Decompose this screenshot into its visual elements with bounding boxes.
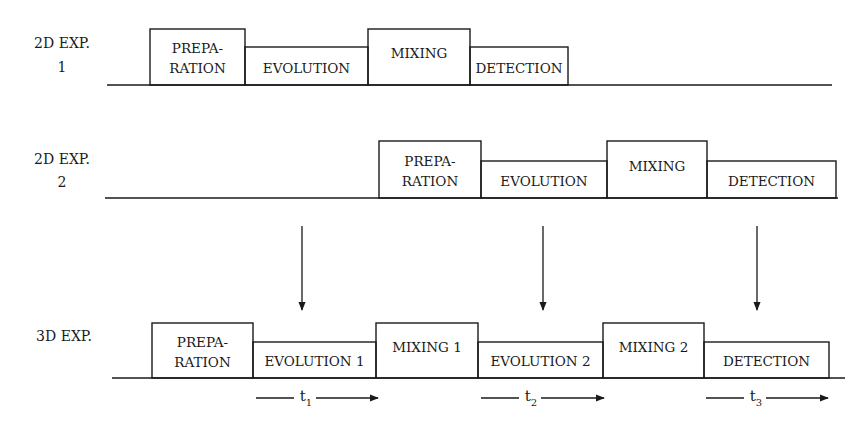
experiment-row-2d-exp-2: 2D EXP.2PREPA-RATIONEVOLUTIONMIXINGDETEC… xyxy=(34,141,838,198)
time-label-t2: t2 xyxy=(481,387,604,408)
block-label: DETECTION xyxy=(723,353,810,369)
block-detection: DETECTION xyxy=(707,161,836,198)
block-label: DETECTION xyxy=(475,60,562,76)
block-outline xyxy=(150,29,245,85)
block-label: RATION xyxy=(402,173,459,189)
time-subscript: 3 xyxy=(756,397,762,408)
row-label: 2D EXP. xyxy=(34,35,90,51)
block-preparation: PREPA-RATION xyxy=(152,323,253,378)
time-subscript: 2 xyxy=(531,397,537,408)
block-preparation: PREPA-RATION xyxy=(379,141,481,198)
block-label: MIXING 2 xyxy=(619,339,689,355)
time-label-t3: t3 xyxy=(706,387,828,408)
time-symbol: t1 xyxy=(300,387,312,408)
block-label: PREPA- xyxy=(404,153,455,169)
pulse-sequence-diagram: 2D EXP.1PREPA-RATIONEVOLUTIONMIXINGDETEC… xyxy=(0,0,863,431)
block-label: RATION xyxy=(169,60,226,76)
block-label: MIXING xyxy=(391,45,448,61)
block-label: EVOLUTION xyxy=(263,60,350,76)
block-evolution: EVOLUTION xyxy=(481,161,607,198)
block-evolution-2: EVOLUTION 2 xyxy=(478,342,603,378)
block-mixing: MIXING xyxy=(607,141,707,198)
block-label: EVOLUTION 2 xyxy=(490,353,590,369)
experiment-row-2d-exp-1: 2D EXP.1PREPA-RATIONEVOLUTIONMIXINGDETEC… xyxy=(34,29,832,85)
block-outline xyxy=(152,323,253,378)
block-label: MIXING 1 xyxy=(392,339,462,355)
row-label: 2 xyxy=(58,174,67,190)
block-label: PREPA- xyxy=(177,334,228,350)
block-mixing: MIXING xyxy=(368,29,470,85)
block-detection: DETECTION xyxy=(470,47,568,85)
block-label: PREPA- xyxy=(172,40,223,56)
block-label: RATION xyxy=(174,354,231,370)
block-outline xyxy=(379,141,481,198)
block-evolution: EVOLUTION xyxy=(245,47,368,85)
time-symbol: t3 xyxy=(750,387,762,408)
time-label-t1: t1 xyxy=(256,387,378,408)
row-label: 2D EXP. xyxy=(34,151,90,167)
block-preparation: PREPA-RATION xyxy=(150,29,245,85)
block-detection: DETECTION xyxy=(704,342,829,378)
block-label: EVOLUTION xyxy=(500,173,587,189)
row-label: 3D EXP. xyxy=(36,328,92,344)
time-symbol: t2 xyxy=(525,387,537,408)
block-label: DETECTION xyxy=(728,173,815,189)
block-label: MIXING xyxy=(629,158,686,174)
block-mixing-2: MIXING 2 xyxy=(603,323,704,378)
block-mixing-1: MIXING 1 xyxy=(376,323,478,378)
experiment-row-3d-exp: 3D EXP.PREPA-RATIONEVOLUTION 1MIXING 1EV… xyxy=(36,323,845,378)
time-subscript: 1 xyxy=(306,397,312,408)
block-label: EVOLUTION 1 xyxy=(264,353,364,369)
block-evolution-1: EVOLUTION 1 xyxy=(253,342,376,378)
row-label: 1 xyxy=(58,59,67,75)
